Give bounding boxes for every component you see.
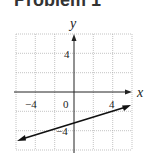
line-arrow-left-icon (17, 135, 26, 141)
y-tick-4: 4 (64, 48, 70, 60)
x-axis-label: x (136, 85, 144, 100)
y-axis-label: y (68, 16, 77, 31)
coordinate-plane: y x −4 0 4 4 −4 (0, 0, 150, 153)
y-axis-arrow-icon (72, 34, 77, 41)
line-arrow-right-icon (122, 105, 131, 111)
x-axis-arrow-icon (125, 90, 132, 95)
x-tick-0: 0 (63, 98, 69, 110)
x-tick-4: 4 (109, 98, 115, 110)
x-tick--4: −4 (25, 98, 37, 110)
